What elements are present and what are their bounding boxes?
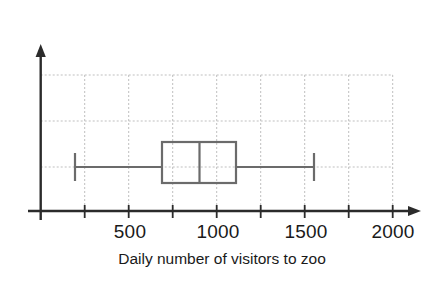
boxplot-series	[75, 142, 314, 183]
x-tick-label-2000: 2000	[371, 222, 414, 241]
axes-layer	[28, 44, 421, 220]
x-tick-label-1500: 1500	[284, 222, 327, 241]
grid-vertical-lines	[85, 75, 393, 211]
x-tick-label-1000: 1000	[196, 222, 239, 241]
y-axis-arrowhead-icon	[36, 44, 46, 57]
boxplot-canvas	[0, 0, 444, 291]
x-axis-title: Daily number of visitors to zoo	[0, 250, 444, 268]
x-axis-arrowhead-icon	[408, 206, 421, 216]
x-tick-label-500: 500	[114, 222, 146, 241]
chart-figure: 500 1000 1500 2000 Daily number of visit…	[0, 0, 444, 291]
